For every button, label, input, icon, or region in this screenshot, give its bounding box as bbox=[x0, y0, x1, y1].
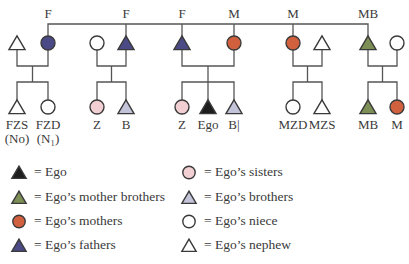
legend-label: = Ego bbox=[34, 164, 67, 180]
open-triangle-icon bbox=[182, 239, 196, 251]
legend-item: = Ego’s mothers bbox=[10, 212, 123, 230]
father-triangle-icon bbox=[12, 239, 26, 251]
legend-item: = Ego bbox=[10, 163, 67, 181]
sister-circle-icon bbox=[183, 166, 195, 178]
legend-item: = Ego’s fathers bbox=[10, 236, 116, 254]
legend-label: = Ego’s sisters bbox=[204, 164, 283, 180]
legend-label: = Ego’s brothers bbox=[204, 189, 293, 205]
mother_brother-triangle-icon bbox=[12, 191, 26, 203]
open-circle-icon bbox=[183, 215, 195, 227]
legend-item: = Ego’s niece bbox=[180, 212, 278, 230]
brother-triangle-icon bbox=[182, 191, 196, 203]
ego-triangle-icon bbox=[12, 166, 26, 178]
legend-label: = Ego’s mother brothers bbox=[34, 189, 165, 205]
mother-circle-icon bbox=[13, 215, 25, 227]
legend-item: = Ego’s mother brothers bbox=[10, 188, 165, 206]
legend-label: = Ego’s fathers bbox=[34, 237, 116, 253]
legend: = Ego= Ego’s mother brothers= Ego’s moth… bbox=[0, 0, 409, 264]
legend-label: = Ego’s niece bbox=[204, 213, 278, 229]
legend-label: = Ego’s mothers bbox=[34, 213, 123, 229]
legend-item: = Ego’s brothers bbox=[180, 188, 293, 206]
legend-item: = Ego’s sisters bbox=[180, 163, 283, 181]
legend-label: = Ego’s nephew bbox=[204, 237, 291, 253]
legend-item: = Ego’s nephew bbox=[180, 236, 291, 254]
